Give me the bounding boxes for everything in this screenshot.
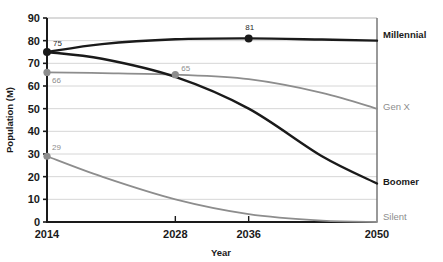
y-tick-label-40: 40 <box>28 125 40 137</box>
data-point-label-81-millennial: 81 <box>245 23 254 32</box>
y-axis-title: Population (M) <box>4 87 15 153</box>
series-label-gen-x: Gen X <box>383 101 411 112</box>
x-axis-title: Year <box>211 247 231 258</box>
data-point-label-66-gen-x: 66 <box>52 76 61 85</box>
y-tick-label-30: 30 <box>28 148 40 160</box>
y-tick-label-60: 60 <box>28 80 40 92</box>
series-label-silent: Silent <box>383 211 407 222</box>
data-point-marker-29-silent <box>43 153 50 160</box>
x-tick-label-2050: 2050 <box>365 228 389 240</box>
data-point-label-29-silent: 29 <box>52 143 61 152</box>
x-tick-label-2014: 2014 <box>35 228 60 240</box>
x-tick-label-2028: 2028 <box>163 228 187 240</box>
y-tick-label-0: 0 <box>34 216 40 228</box>
data-point-marker-81-millennial <box>245 34 253 42</box>
data-point-marker-75-millennial <box>43 48 51 56</box>
data-point-marker-65-gen-x <box>172 71 179 78</box>
y-tick-label-90: 90 <box>28 12 40 24</box>
y-tick-label-20: 20 <box>28 171 40 183</box>
chart-canvas: 0102030405060708090 2014202820362050 758… <box>0 0 443 262</box>
y-tick-label-70: 70 <box>28 57 40 69</box>
series-label-boomer: Boomer <box>383 176 419 187</box>
data-point-label-65-gen-x: 65 <box>181 64 190 73</box>
population-projection-line-chart: 0102030405060708090 2014202820362050 758… <box>0 0 443 262</box>
series-label-millennial: Millennial <box>383 29 426 40</box>
y-tick-label-50: 50 <box>28 103 40 115</box>
x-tick-label-2036: 2036 <box>236 228 260 240</box>
y-tick-label-80: 80 <box>28 35 40 47</box>
y-tick-label-10: 10 <box>28 193 40 205</box>
data-point-marker-66-gen-x <box>43 69 50 76</box>
data-point-label-75-millennial: 75 <box>53 39 62 48</box>
